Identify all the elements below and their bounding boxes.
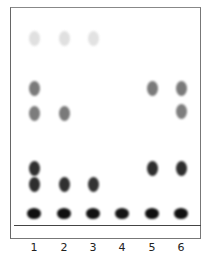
spot <box>57 208 71 219</box>
spot <box>176 81 187 96</box>
spot <box>88 31 99 46</box>
spot <box>59 31 70 46</box>
origin-line <box>14 225 201 226</box>
spot <box>88 177 99 192</box>
spot <box>29 106 40 121</box>
spot <box>59 106 70 121</box>
spot <box>29 161 40 176</box>
lane-label: 4 <box>115 241 129 254</box>
lane-label: 5 <box>145 241 159 254</box>
spot <box>29 177 40 192</box>
spot <box>176 161 187 176</box>
spot <box>59 177 70 192</box>
lane-label: 3 <box>86 241 100 254</box>
spot <box>115 208 129 219</box>
lane-label: 1 <box>27 241 41 254</box>
spot <box>29 31 40 46</box>
spot <box>147 161 158 176</box>
spot <box>174 208 188 219</box>
spot <box>147 81 158 96</box>
spot <box>145 208 159 219</box>
spot <box>86 208 100 219</box>
spot <box>176 104 187 119</box>
spot <box>27 208 41 219</box>
lane-label: 6 <box>174 241 188 254</box>
spot <box>29 81 40 96</box>
lane-label: 2 <box>57 241 71 254</box>
